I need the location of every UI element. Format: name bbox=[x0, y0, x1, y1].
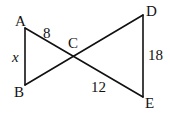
vertex-label-A: A bbox=[15, 13, 26, 29]
length-label-AB: x bbox=[11, 49, 19, 65]
length-label-CE: 12 bbox=[91, 79, 106, 95]
vertex-label-D: D bbox=[146, 3, 157, 19]
bowtie-triangles-diagram: A B C D E 8 x 18 12 bbox=[0, 0, 170, 113]
vertex-label-E: E bbox=[145, 95, 154, 111]
vertex-label-B: B bbox=[14, 84, 24, 100]
length-label-AC: 8 bbox=[43, 25, 51, 41]
length-label-DE: 18 bbox=[148, 47, 163, 63]
vertex-label-C: C bbox=[68, 35, 78, 51]
